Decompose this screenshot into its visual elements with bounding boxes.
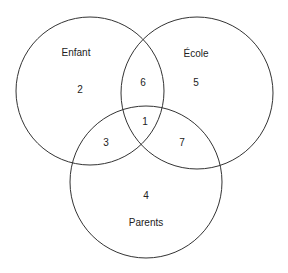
- region-2: 2: [77, 84, 83, 95]
- venn-diagram: Enfant École Parents 2 6 5 1 3 7 4: [0, 0, 288, 273]
- label-parents: Parents: [129, 217, 163, 228]
- region-6: 6: [140, 77, 146, 88]
- circle-parents: [70, 106, 222, 258]
- region-3: 3: [103, 137, 109, 148]
- region-4: 4: [143, 190, 149, 201]
- label-ecole: École: [183, 47, 208, 59]
- label-enfant: Enfant: [62, 47, 91, 58]
- circle-enfant: [16, 17, 164, 165]
- region-1: 1: [142, 116, 148, 127]
- region-7: 7: [179, 137, 185, 148]
- region-5: 5: [193, 77, 199, 88]
